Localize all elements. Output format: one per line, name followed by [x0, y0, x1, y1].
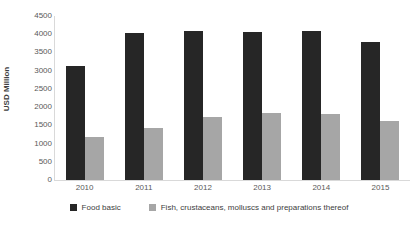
bar[interactable]: [262, 113, 281, 180]
legend-swatch-icon: [70, 204, 77, 211]
bar[interactable]: [144, 128, 163, 180]
bar[interactable]: [380, 121, 399, 180]
y-axis-tick-label: 1500: [14, 121, 52, 129]
x-axis-tick-label: 2011: [114, 183, 173, 197]
y-axis-tick-label: 2000: [14, 103, 52, 111]
y-axis-tick-labels: 450040003500300025002000150010005000: [14, 0, 52, 226]
y-axis-tick-label: 4500: [14, 12, 52, 20]
y-axis-tick-label: 0: [14, 176, 52, 184]
y-axis-tick-label: 2500: [14, 85, 52, 93]
y-axis-tick-label: 1000: [14, 140, 52, 148]
legend-swatch-icon: [149, 204, 156, 211]
plot-area: [55, 16, 410, 180]
x-axis-tick-label: 2012: [173, 183, 232, 197]
bar-groups: [55, 16, 410, 180]
bar-group: [55, 16, 114, 180]
legend-label: Fish, crustaceans, molluscs and preparat…: [161, 203, 349, 212]
bar-group: [173, 16, 232, 180]
bar-group: [292, 16, 351, 180]
y-axis-title-label: USD Million: [2, 44, 11, 134]
legend-item[interactable]: Food basic: [70, 203, 121, 212]
x-axis-tick-label: 2015: [351, 183, 410, 197]
bar[interactable]: [85, 137, 104, 180]
x-axis-line: [55, 180, 410, 181]
bar[interactable]: [66, 66, 85, 180]
bar[interactable]: [361, 42, 380, 180]
x-axis-tick-label: 2013: [233, 183, 292, 197]
legend-item[interactable]: Fish, crustaceans, molluscs and preparat…: [149, 203, 349, 212]
x-axis-tick-labels: 201020112012201320142015: [55, 183, 410, 197]
legend-label: Food basic: [82, 203, 121, 212]
bar[interactable]: [203, 117, 222, 180]
x-axis-tick-label: 2010: [55, 183, 114, 197]
bar-group: [233, 16, 292, 180]
bar[interactable]: [184, 31, 203, 180]
bar[interactable]: [302, 31, 321, 180]
bar[interactable]: [243, 32, 262, 180]
y-axis-tick-label: 4000: [14, 30, 52, 38]
bar[interactable]: [125, 33, 144, 180]
bar-chart: USD Million 4500400035003000250020001500…: [0, 0, 418, 226]
chart-legend: Food basicFish, crustaceans, molluscs an…: [0, 203, 418, 212]
bar-group: [114, 16, 173, 180]
bar-group: [351, 16, 410, 180]
bar[interactable]: [321, 114, 340, 180]
x-axis-tick-label: 2014: [292, 183, 351, 197]
y-axis-tick-label: 3500: [14, 48, 52, 56]
y-axis-tick-label: 500: [14, 158, 52, 166]
y-axis-tick-label: 3000: [14, 67, 52, 75]
